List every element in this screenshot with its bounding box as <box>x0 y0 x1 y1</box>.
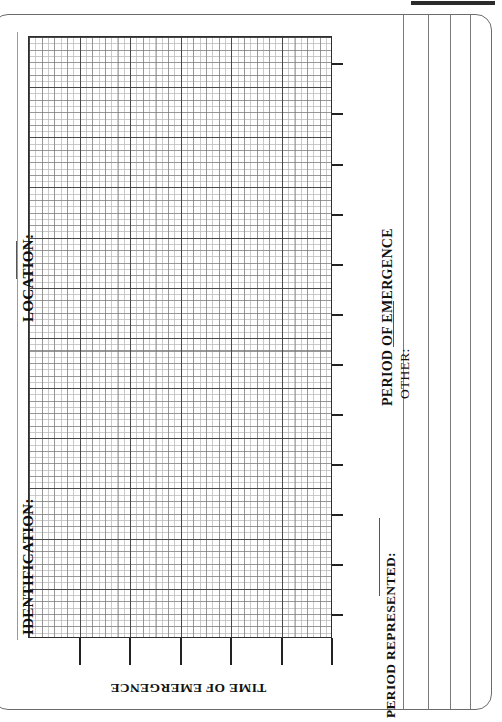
x-axis-tick-6 <box>331 638 333 665</box>
ruled-column-line-2 <box>428 15 429 709</box>
y-axis-tick-7 <box>332 364 343 366</box>
other-fill-in-line[interactable] <box>393 301 394 347</box>
x-axis-tick-4 <box>230 638 232 665</box>
plot-grid[interactable] <box>28 36 332 638</box>
y-axis-tick-5 <box>332 264 343 266</box>
x-axis-tick-1 <box>79 638 81 665</box>
x-axis-tick-2 <box>129 638 131 665</box>
y-axis-tick-9 <box>332 464 343 466</box>
location-fill-in-line[interactable] <box>16 241 17 279</box>
ruled-column-line-3 <box>450 15 451 709</box>
scan-artifact-gap <box>411 5 495 6</box>
label-other: OTHER: <box>397 348 413 399</box>
y-axis-tick-6 <box>332 314 343 316</box>
y-axis-tick-8 <box>332 414 343 416</box>
x-axis-tick-5 <box>281 638 283 665</box>
x-axis-tick-3 <box>180 638 182 665</box>
left-writing-rule <box>17 32 18 640</box>
y-axis-tick-11 <box>332 564 343 566</box>
page-canvas: LOCATION: IDENTIFICATION: PERIOD OF EMER… <box>0 0 502 722</box>
label-period-represented: PERIOD REPRESENTED: <box>383 552 399 718</box>
period-represented-fill-in-line[interactable] <box>379 518 380 596</box>
y-axis-tick-2 <box>332 113 343 115</box>
label-identification: IDENTIFICATION: <box>20 498 37 635</box>
ruled-column-line-4 <box>470 15 471 709</box>
y-axis-tick-12 <box>332 614 343 616</box>
y-axis-tick-1 <box>332 63 343 65</box>
y-axis-tick-10 <box>332 514 343 516</box>
label-time-of-emergence: TIME OF EMERGENCE <box>110 680 266 696</box>
y-axis-tick-4 <box>332 214 343 216</box>
label-location: LOCATION: <box>20 234 37 322</box>
y-axis-tick-3 <box>332 164 343 166</box>
